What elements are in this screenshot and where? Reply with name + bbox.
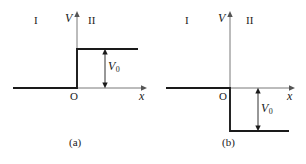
panel-b: I V II O x V0 (b)	[153, 0, 306, 164]
v0-label-a: V0	[108, 60, 120, 74]
v0-label-a-main: V	[108, 59, 115, 73]
origin-label-b: O	[219, 91, 227, 102]
v0-label-b: V0	[261, 102, 273, 116]
x-axis-label-b: x	[287, 90, 292, 102]
region-label-I-a: I	[34, 15, 38, 26]
v0-label-a-subscript: 0	[116, 65, 120, 74]
caption-a: (a)	[69, 137, 81, 148]
x-axis-label-a: x	[139, 90, 144, 102]
potential-step-figure: I V II O x V0 (a)	[0, 0, 306, 164]
region-label-II-b: II	[246, 15, 253, 26]
region-label-I-b: I	[185, 15, 189, 26]
caption-b: (b)	[222, 137, 235, 148]
v-axis-label-a: V	[65, 12, 72, 24]
panel-a: I V II O x V0 (a)	[0, 0, 153, 164]
origin-label-a: O	[70, 91, 78, 102]
v0-label-b-main: V	[261, 101, 268, 115]
region-label-II-a: II	[88, 15, 95, 26]
v-axis-b	[227, 11, 232, 88]
v0-measure-arrow-b	[255, 88, 260, 131]
v-axis-label-b: V	[218, 12, 225, 24]
v0-label-b-subscript: 0	[269, 107, 273, 116]
v0-measure-arrow-a	[102, 49, 107, 88]
